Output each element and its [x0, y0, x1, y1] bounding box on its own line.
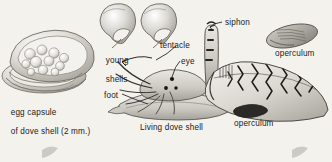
- label-egg-capsule-line2: of dove shell (2 mm.): [11, 127, 91, 136]
- label-operculum-bottom: operculum: [234, 119, 274, 128]
- label-young-shells-line2: shells: [106, 75, 128, 84]
- label-egg-capsule: egg capsule of dove shell (2 mm.): [1, 99, 90, 146]
- label-eye: eye: [181, 57, 195, 66]
- page-bleed-artifacts: [42, 146, 308, 158]
- young-shell-left: [100, 4, 136, 48]
- label-operculum-top: operculum: [275, 49, 315, 58]
- label-siphon: siphon: [225, 18, 250, 27]
- living-dove-shell-specimen: [108, 22, 332, 121]
- label-egg-capsule-line1: egg capsule: [11, 108, 57, 117]
- label-tentacle: tentacle: [160, 41, 190, 50]
- operculum-specimen: [264, 20, 319, 52]
- label-young-shells: young shells: [96, 47, 129, 94]
- leader-lines: [122, 22, 248, 116]
- egg-capsule-specimen: [2, 30, 94, 93]
- label-foot: foot: [104, 91, 118, 100]
- illustration-plate: egg capsule of dove shell (2 mm.) young …: [0, 0, 332, 162]
- label-living-dove-shell: Living dove shell: [140, 123, 203, 132]
- label-young-shells-line1: young: [106, 56, 129, 65]
